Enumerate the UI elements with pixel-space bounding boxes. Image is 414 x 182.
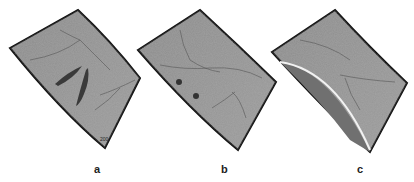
dot-2: [193, 93, 199, 99]
figure-canvas: 200: [0, 0, 414, 182]
scale-mark: 200: [100, 136, 109, 142]
panel-a-image: 200: [10, 10, 140, 148]
panel-b-image: [138, 10, 276, 150]
panel-b-label: b: [221, 163, 228, 175]
panel-c-image: [272, 10, 407, 152]
panel-c-label: c: [357, 163, 363, 175]
panel-a-label: a: [94, 163, 100, 175]
dot-1: [176, 79, 182, 85]
